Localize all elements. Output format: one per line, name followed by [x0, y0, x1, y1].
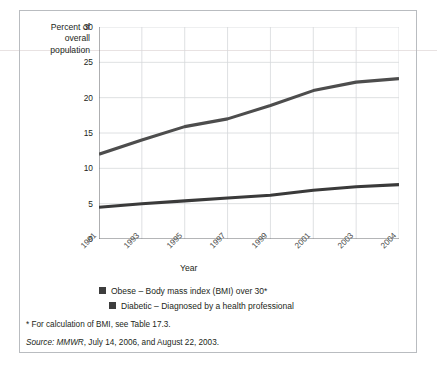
source-publication: MMWR	[57, 338, 84, 347]
legend-swatch-obese	[99, 287, 106, 294]
footnote-text: * For calculation of BMI, see Table 17.3…	[26, 320, 171, 329]
x-axis-title: Year	[180, 263, 197, 273]
source-rest: , July 14, 2006, and August 22, 2003.	[84, 338, 219, 347]
plot-area	[99, 27, 399, 239]
figure-page: Percent of overall population 0510152025…	[0, 0, 437, 377]
y-tick-label: 20	[73, 93, 93, 103]
source-prefix: Source:	[26, 338, 54, 347]
source-note: Source: MMWR, July 14, 2006, and August …	[26, 338, 219, 347]
legend-item-obese: Obese – Body mass index (BMI) over 30*	[99, 283, 389, 298]
legend-swatch-diabetic	[109, 302, 116, 309]
y-tick-label: 5	[73, 199, 93, 209]
legend-label-obese: Obese – Body mass index (BMI) over 30*	[111, 286, 267, 296]
y-tick-label: 10	[73, 163, 93, 173]
y-tick-label: 25	[73, 57, 93, 67]
y-tick-label: 15	[73, 128, 93, 138]
chart-legend: Obese – Body mass index (BMI) over 30* D…	[99, 283, 389, 313]
legend-item-diabetic: Diabetic – Diagnosed by a health profess…	[99, 298, 389, 313]
series-line-obese	[99, 79, 399, 155]
y-tick-label: 30	[73, 22, 93, 32]
line-chart	[99, 27, 399, 239]
legend-label-diabetic: Diabetic – Diagnosed by a health profess…	[121, 301, 294, 311]
